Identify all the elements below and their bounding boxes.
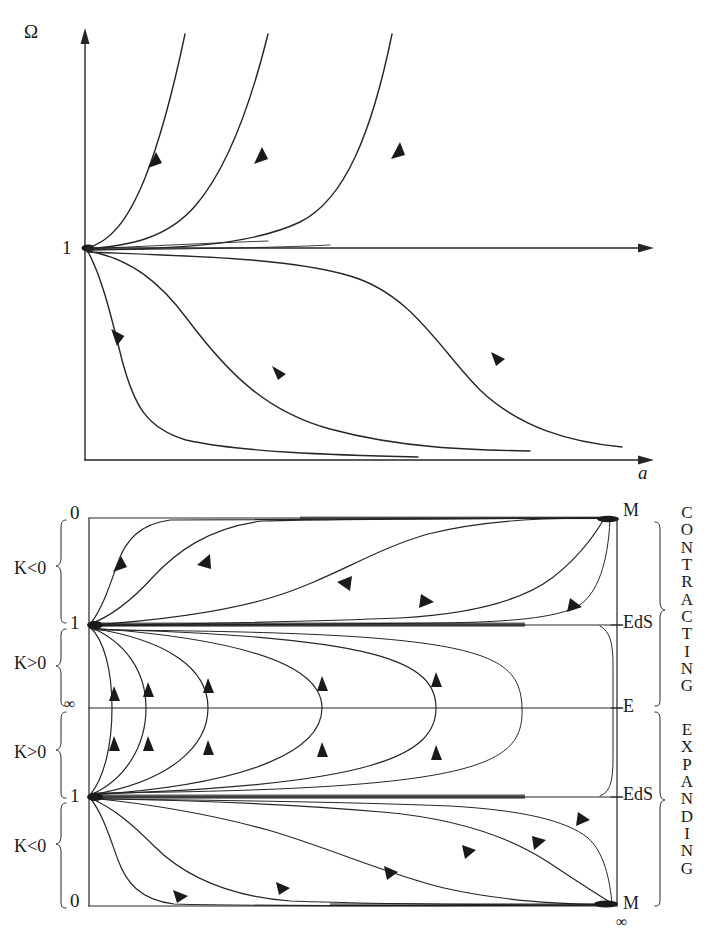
region-label-k-negative-upper: K<0 [14, 558, 46, 579]
vert-letter: T [676, 625, 698, 642]
vert-letter: E [676, 721, 698, 738]
vert-letter: N [676, 660, 698, 677]
arrow-icon [431, 672, 442, 687]
right-tick-eds-lower: EdS [623, 784, 653, 805]
curve-falling-1 [87, 250, 418, 457]
arrow-icon [276, 882, 290, 895]
right-tick-m-bottom: M [623, 893, 639, 914]
arrow-icon [317, 676, 328, 691]
vert-letter: D [676, 808, 698, 825]
brace-contracting [655, 522, 665, 706]
arrow-icon [113, 556, 127, 572]
curve-upper-kpos-5 [92, 629, 436, 794]
vert-letter: N [676, 790, 698, 807]
left-braces [56, 520, 66, 908]
bottom-panel-plot [0, 490, 724, 943]
curve-upper-kpos-right [600, 626, 613, 796]
vert-letter: R [676, 573, 698, 590]
curve-lower-kneg-5 [91, 799, 612, 904]
curve-upper-kpos-1 [90, 627, 112, 795]
vert-letter: T [676, 556, 698, 573]
vert-letter: N [676, 842, 698, 859]
curve-rising-3 [86, 34, 392, 250]
curve-upper-kpos-2 [90, 627, 146, 795]
arrow-icon [419, 594, 434, 608]
dense-band-eds-lower [95, 795, 525, 799]
arrow-icon [462, 845, 476, 859]
arrow-icon [337, 576, 352, 591]
dense-band-top [300, 517, 610, 520]
brace-k-negative-lower [56, 803, 66, 908]
arrow-icon [143, 736, 154, 751]
vert-letter: X [676, 738, 698, 755]
curve-falling-2 [87, 251, 530, 451]
arrow-icon [148, 152, 162, 168]
vert-letter: A [676, 773, 698, 790]
vert-letter: G [676, 860, 698, 877]
arrow-icon [254, 147, 268, 164]
arrow-icon [491, 352, 505, 366]
curve-upper-kneg-5 [91, 520, 610, 626]
curve-upper-kpos-3 [90, 628, 208, 795]
arrow-icon [431, 745, 442, 760]
right-tick-e: E [623, 696, 634, 717]
figure-root: Ω 1 a [0, 0, 724, 943]
curve-lower-kneg-4 [90, 799, 613, 905]
arrow-icon [532, 836, 546, 850]
region-label-k-positive-upper: K>0 [14, 653, 46, 674]
vert-letter: N [676, 539, 698, 556]
vert-letter: I [676, 643, 698, 660]
panel-omega-vs-a: Ω 1 a [0, 0, 724, 490]
left-tick-1-lower: 1 [70, 785, 80, 807]
curve-upper-kneg-2 [90, 518, 600, 624]
vert-letter: C [676, 504, 698, 521]
x-axis-label-a: a [638, 463, 648, 482]
arrow-icon [197, 554, 211, 569]
curve-falling-3 [87, 252, 622, 447]
y-axis-label-omega: Ω [24, 22, 38, 41]
curve-upper-kneg-4 [90, 519, 604, 626]
left-tick-infinity: ∞ [64, 695, 75, 713]
y-axis-arrowhead [81, 28, 90, 44]
region-label-k-positive-lower: K>0 [14, 742, 46, 763]
y-tick-label-1: 1 [62, 237, 72, 259]
arrow-icon [109, 329, 125, 347]
right-braces [655, 522, 665, 906]
vert-letter: G [676, 677, 698, 694]
right-tick-m-top: M [623, 500, 639, 521]
arrow-icon [384, 866, 398, 880]
vert-letter: A [676, 591, 698, 608]
arrow-icon [203, 678, 214, 693]
left-tick-0-bottom: 0 [70, 890, 80, 912]
curve-upper-kpos-6 [94, 630, 522, 793]
vert-letter: P [676, 756, 698, 773]
flow-direction-arrows-top [109, 142, 505, 380]
vert-letter: O [676, 521, 698, 538]
dense-band-eds-upper [95, 623, 525, 627]
invariant-line-arrowhead [638, 244, 654, 253]
panel-compactified-portrait: 0 1 ∞ 1 0 K<0 K>0 K>0 K<0 M EdS E EdS M … [0, 490, 724, 943]
curve-lower-kneg-1 [90, 798, 612, 906]
vert-letter: C [676, 608, 698, 625]
flow-direction-arrows-bottom [109, 554, 590, 903]
curve-rising-2 [86, 34, 268, 249]
curve-upper-kneg-3 [90, 518, 600, 625]
curve-upper-kneg-1 [90, 518, 600, 624]
region-label-k-negative-lower: K<0 [14, 836, 46, 857]
arrow-icon [173, 890, 188, 903]
left-tick-0-top: 0 [70, 502, 80, 524]
right-brace-label-expanding: E X P A N D I N G [676, 721, 698, 877]
brace-k-positive-lower [56, 712, 66, 798]
left-tick-1-upper: 1 [70, 612, 80, 634]
curve-rising-1 [86, 34, 185, 248]
right-brace-label-contracting: C O N T R A C T I N G [676, 504, 698, 695]
dense-band-bottom [330, 903, 610, 906]
arrow-icon [272, 366, 286, 380]
brace-k-negative-upper [56, 520, 66, 623]
arrow-icon [203, 740, 214, 755]
fan-point-blobs [87, 516, 619, 908]
arrow-icon [391, 142, 405, 159]
arrow-icon [317, 742, 328, 757]
vert-letter: I [676, 825, 698, 842]
right-tick-eds-upper: EdS [623, 612, 653, 633]
